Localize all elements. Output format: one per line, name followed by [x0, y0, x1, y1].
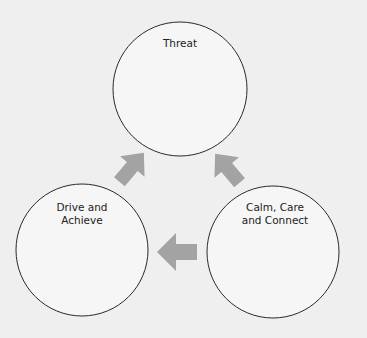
diagram-canvas: Threat Drive and Achieve Calm, Care and …	[0, 0, 367, 338]
calm-label: Calm, Care and Connect	[225, 201, 325, 227]
diagram-svg	[0, 0, 367, 338]
arrow-up-left-icon	[203, 143, 252, 193]
arrow-left-icon	[157, 233, 197, 271]
drive-label: Drive and Achieve	[37, 201, 127, 227]
arrow-up-right-icon	[107, 142, 156, 192]
threat-label: Threat	[140, 37, 220, 50]
